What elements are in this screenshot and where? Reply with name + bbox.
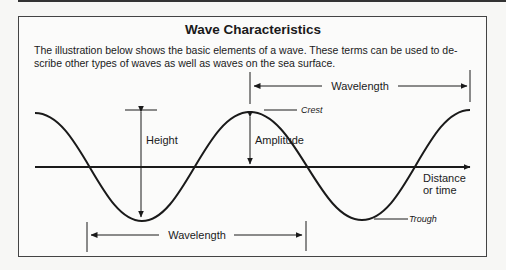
axis-label-line-2: or time [423,184,457,196]
crest-label: Crest [301,105,323,115]
height-label: Height [146,134,178,146]
wavelength-top-label: Wavelength [331,80,389,92]
trough-label: Trough [409,214,437,224]
wavelength-bottom-label: Wavelength [168,229,226,241]
wave-diagram: Distance or time Height Amplitude Crest … [0,0,506,270]
axis-label-line-1: Distance [423,172,466,184]
amplitude-label: Amplitude [255,134,304,146]
wave-curve [35,110,470,221]
